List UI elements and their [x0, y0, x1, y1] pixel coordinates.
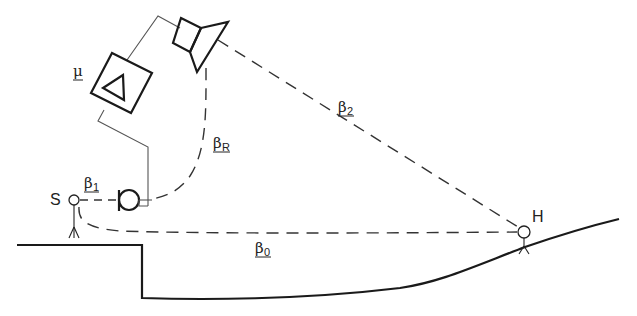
- svg-text:2: 2: [347, 105, 353, 117]
- source-label: S: [50, 191, 61, 208]
- label-beta-R: β R: [213, 134, 230, 153]
- svg-text:μ: μ: [73, 62, 83, 80]
- loudspeaker: [173, 18, 228, 72]
- label-beta-0: β 0: [255, 239, 271, 258]
- svg-text:R: R: [222, 141, 230, 153]
- feedback-diagram: μ S H β 1 β 0: [0, 0, 637, 316]
- path-beta-R: [152, 68, 206, 199]
- path-beta-2: [218, 40, 518, 227]
- microphone: [119, 190, 152, 211]
- source-head: [69, 195, 79, 205]
- source-talker: [69, 195, 79, 238]
- svg-text:β: β: [84, 174, 93, 192]
- svg-text:β: β: [213, 134, 222, 152]
- listener-head: [518, 226, 530, 238]
- svg-text:β: β: [338, 98, 347, 116]
- amplifier-box: [91, 53, 152, 113]
- ground-profile: [17, 219, 619, 299]
- amplifier: [91, 53, 152, 113]
- path-beta-0: [79, 207, 517, 233]
- amplifier-triangle-icon: [103, 75, 124, 100]
- label-beta-1: β 1: [84, 174, 99, 193]
- listener-label: H: [532, 208, 544, 225]
- svg-text:1: 1: [93, 181, 99, 193]
- loudspeaker-horn: [190, 22, 228, 72]
- svg-text:0: 0: [264, 246, 270, 258]
- label-beta-2: β 2: [338, 98, 354, 117]
- amplifier-gain-label: μ: [73, 62, 83, 80]
- wire-amp-to-speaker: [127, 16, 180, 60]
- svg-text:β: β: [255, 239, 264, 257]
- microphone-capsule: [119, 190, 139, 210]
